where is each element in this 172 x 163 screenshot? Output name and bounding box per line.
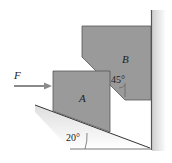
wedge-angle-label: 45° [111, 75, 125, 85]
statics-diagram: F A B 45° 20° [0, 0, 172, 163]
diagram-graphics [0, 0, 172, 163]
block-a-label: A [79, 93, 86, 104]
block-b-label: B [122, 54, 129, 65]
force-arrow-head [44, 83, 52, 90]
incline-angle-label: 20° [66, 133, 80, 143]
wall-shade [152, 10, 166, 151]
force-label: F [14, 70, 21, 81]
